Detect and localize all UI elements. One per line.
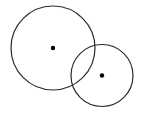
small-circle-center-dot [100,73,104,77]
overlapping-circles-diagram [0,0,141,113]
large-circle-group [11,6,95,90]
large-circle-center-dot [51,46,55,50]
diagram-canvas [0,0,141,113]
small-circle-group [71,45,133,107]
